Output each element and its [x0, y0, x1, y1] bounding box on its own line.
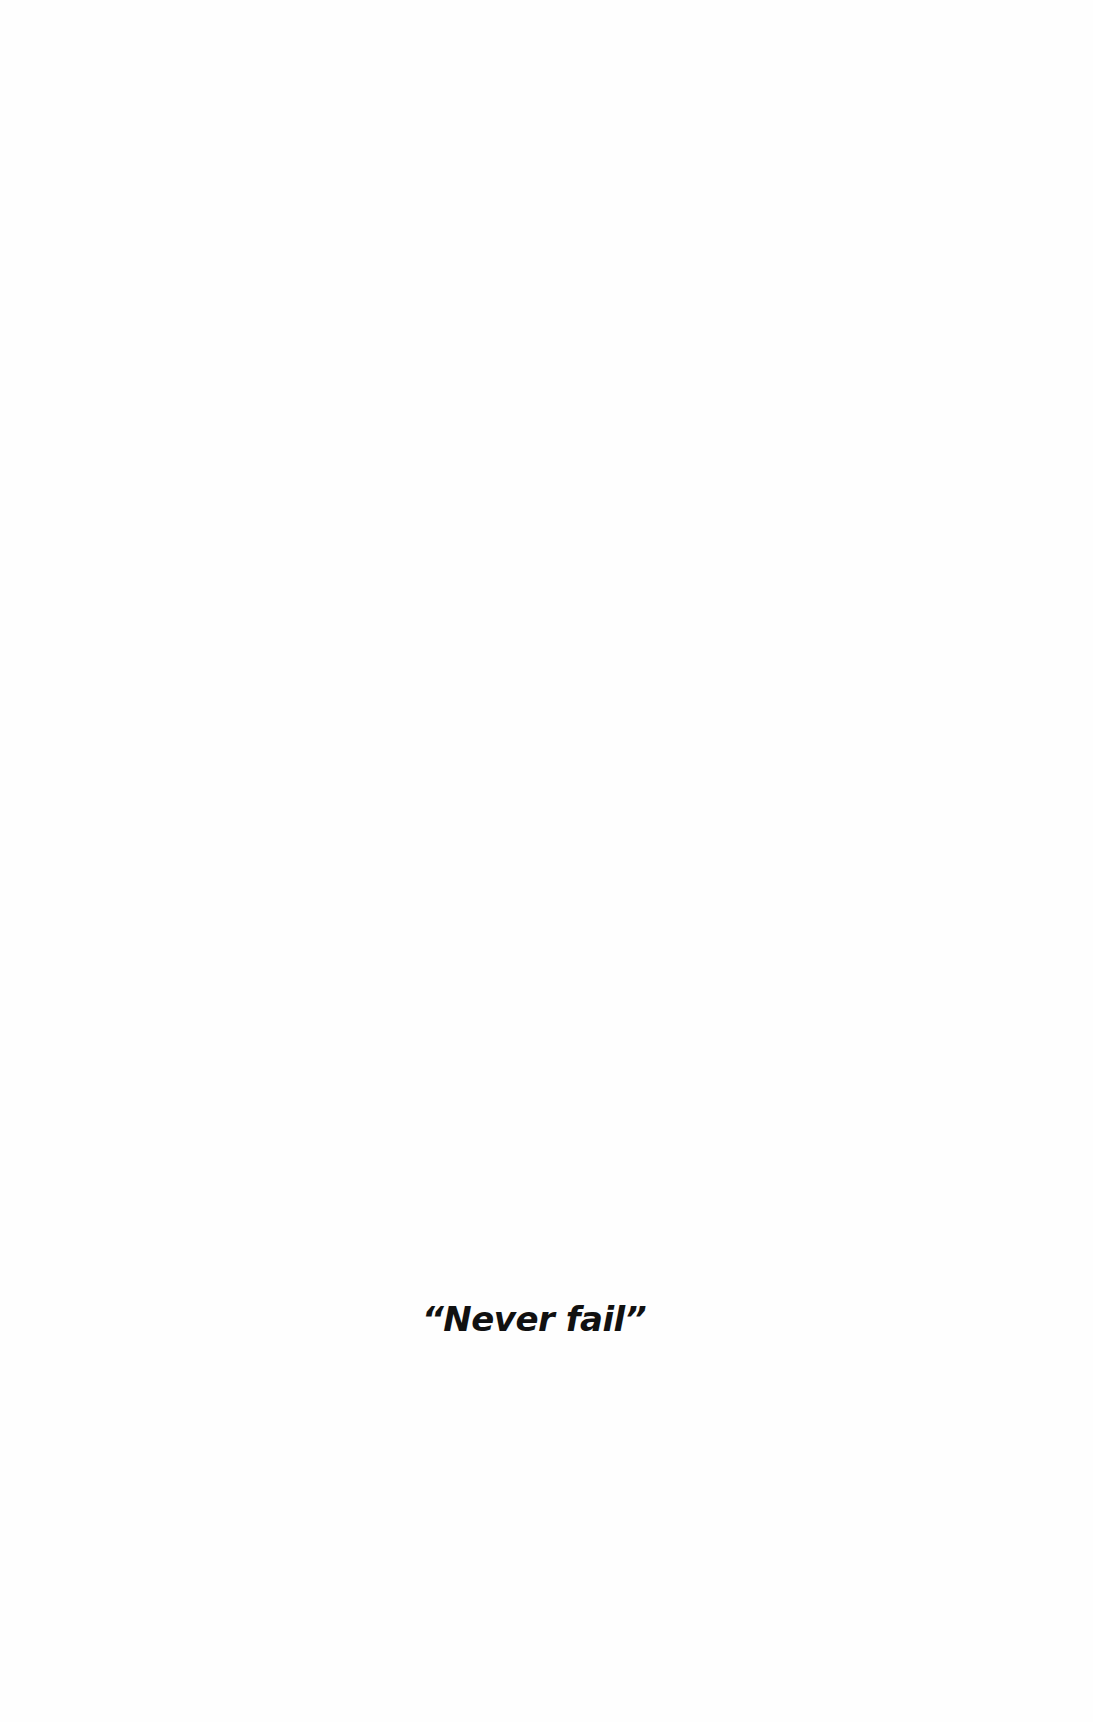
- epigraph-quote: “Never fail”: [0, 1294, 1068, 1344]
- book-page: “Never fail”: [0, 0, 1093, 1722]
